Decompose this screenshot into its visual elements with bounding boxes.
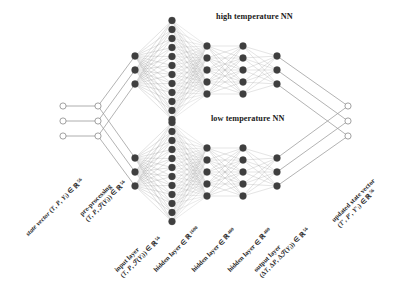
connection-line	[98, 121, 135, 172]
pre-processing-node	[95, 133, 101, 139]
connection-line	[135, 39, 172, 57]
high-hidden1-node	[169, 62, 176, 69]
high-hidden1-node	[169, 98, 176, 105]
neural-network-graphic	[0, 0, 415, 291]
high-output-node	[274, 67, 281, 74]
connection-line	[98, 56, 135, 106]
pre-processing-node	[95, 103, 101, 109]
high-hidden3-node	[240, 43, 247, 50]
state-vector-node	[60, 103, 66, 109]
connection-line	[172, 58, 207, 120]
low-hidden2-node	[204, 145, 211, 152]
updated-state-vector-node	[345, 118, 351, 124]
high-hidden1-node	[169, 71, 176, 78]
connection-line	[135, 186, 172, 204]
high-hidden2-node	[204, 79, 211, 86]
low-hidden3-node	[240, 169, 247, 176]
diagram-canvas: high temperature NN low temperature NN s…	[0, 0, 415, 291]
state-vector-node	[60, 118, 66, 124]
connection-line	[277, 106, 348, 158]
low-hidden2-node	[204, 157, 211, 164]
high-input-node	[132, 53, 139, 60]
connection-line	[277, 121, 348, 172]
low-hidden1-node	[169, 218, 176, 225]
low-hidden3-node	[240, 181, 247, 188]
low-input-node	[132, 183, 139, 190]
connection-line	[277, 56, 348, 106]
updated-state-vector-node	[345, 133, 351, 139]
high-hidden1-node	[169, 107, 176, 114]
low-temperature-nn-title: low temperature NN	[211, 114, 285, 123]
high-hidden3-node	[240, 67, 247, 74]
low-hidden2-node	[204, 193, 211, 200]
low-hidden3-node	[240, 193, 247, 200]
connection-line	[172, 132, 207, 173]
low-hidden1-node	[169, 173, 176, 180]
connection-line	[277, 136, 348, 186]
high-hidden1-node	[169, 89, 176, 96]
connection-line	[243, 46, 277, 56]
connection-line	[243, 186, 277, 196]
connection-line	[135, 141, 172, 159]
state-vector-node	[60, 133, 66, 139]
high-hidden3-node	[240, 91, 247, 98]
connection-line	[172, 70, 207, 111]
high-hidden1-node	[169, 44, 176, 51]
connection-line	[135, 84, 172, 85]
low-hidden1-node	[169, 191, 176, 198]
pre-processing-node	[95, 118, 101, 124]
high-hidden1-node	[169, 17, 176, 24]
low-hidden1-node	[169, 209, 176, 216]
high-hidden1-node	[169, 80, 176, 87]
low-hidden1-node	[169, 146, 176, 153]
low-hidden1-node	[169, 128, 176, 135]
low-hidden1-node	[169, 182, 176, 189]
low-input-node	[132, 169, 139, 176]
high-hidden3-node	[240, 55, 247, 62]
connection-line	[172, 172, 207, 213]
high-hidden2-node	[204, 55, 211, 62]
low-hidden2-node	[204, 181, 211, 188]
low-hidden1-node	[169, 155, 176, 162]
high-output-node	[274, 53, 281, 60]
connection-line	[98, 106, 135, 158]
high-input-node	[132, 81, 139, 88]
high-hidden2-node	[204, 91, 211, 98]
low-hidden1-node	[169, 137, 176, 144]
low-output-node	[274, 155, 281, 162]
high-temperature-nn-title: high temperature NN	[216, 12, 293, 21]
connection-line	[243, 148, 277, 158]
low-hidden1-node	[169, 119, 176, 126]
connection-line	[243, 84, 277, 94]
low-output-node	[274, 183, 281, 190]
high-hidden1-node	[169, 35, 176, 42]
low-hidden2-node	[204, 169, 211, 176]
high-hidden2-node	[204, 67, 211, 74]
low-output-node	[274, 169, 281, 176]
connection-line	[172, 160, 207, 222]
high-hidden2-node	[204, 43, 211, 50]
high-input-node	[132, 67, 139, 74]
high-hidden1-node	[169, 26, 176, 33]
low-input-node	[132, 155, 139, 162]
low-hidden1-node	[169, 164, 176, 171]
low-hidden3-node	[240, 157, 247, 164]
low-hidden1-node	[169, 200, 176, 207]
high-hidden3-node	[240, 79, 247, 86]
high-hidden1-node	[169, 53, 176, 60]
updated-state-vector-node	[345, 103, 351, 109]
connection-line	[172, 30, 207, 71]
connection-line	[135, 186, 172, 187]
high-output-node	[274, 81, 281, 88]
connection-line	[135, 84, 172, 102]
low-hidden3-node	[240, 145, 247, 152]
